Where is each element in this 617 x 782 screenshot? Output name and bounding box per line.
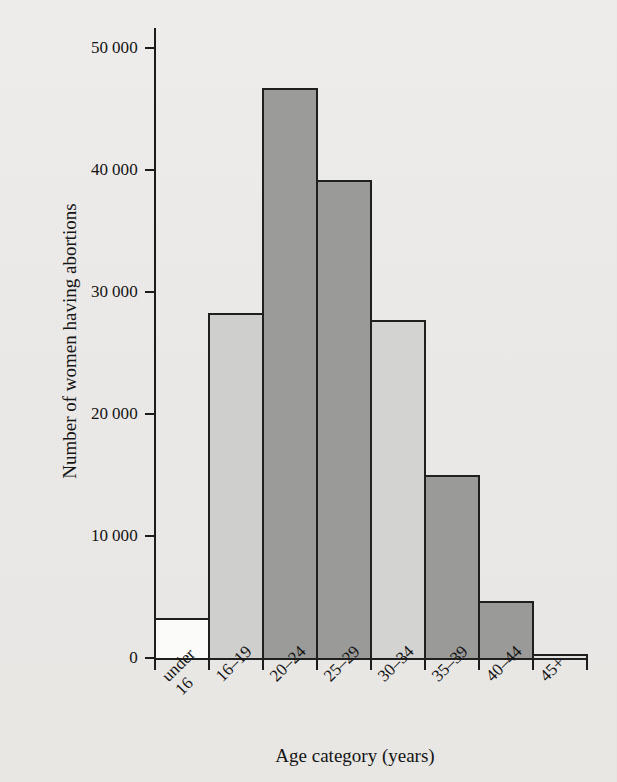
bar: [370, 320, 426, 660]
bar: [262, 88, 318, 660]
bar: [424, 475, 480, 660]
x-axis-tick: [316, 659, 318, 670]
y-axis-tick-label-text: 0: [50, 649, 138, 666]
y-axis-tick-label-text: 50 000: [50, 39, 138, 56]
bar-chart: 010 00020 00030 00040 00050 000 under 16…: [0, 0, 617, 782]
bar: [316, 180, 372, 660]
y-axis-line: [154, 28, 156, 660]
x-axis-tick: [532, 659, 534, 670]
x-axis-tick: [154, 659, 156, 670]
x-axis-tick: [370, 659, 372, 670]
y-axis-tick-label: 0: [48, 649, 138, 666]
y-axis-title: Number of women having abortions: [59, 81, 81, 601]
bar: [208, 313, 264, 660]
x-axis-tick: [586, 659, 588, 670]
y-axis-tick: [145, 47, 155, 49]
y-axis-tick: [145, 169, 155, 171]
y-axis-tick: [145, 413, 155, 415]
x-axis-title: Age category (years): [120, 745, 590, 767]
y-axis-tick-label: 50 000: [48, 39, 138, 56]
x-axis-tick: [424, 659, 426, 670]
y-axis-tick: [145, 535, 155, 537]
x-axis-tick: [262, 659, 264, 670]
x-axis-tick: [478, 659, 480, 670]
y-axis-tick: [145, 291, 155, 293]
